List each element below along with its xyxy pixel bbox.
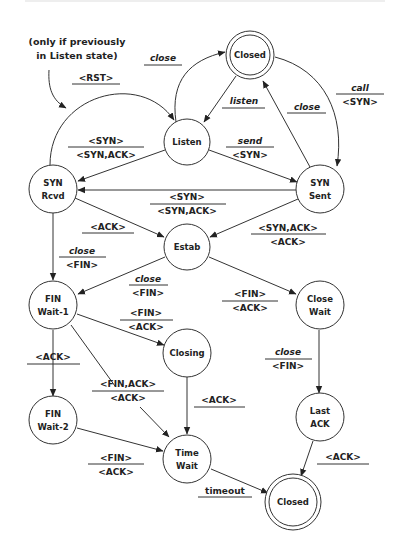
- edge-finwait1-timewait-a: [71, 325, 115, 386]
- svg-text:<FIN,ACK>: <FIN,ACK>: [100, 379, 156, 389]
- svg-text:Wait: Wait: [176, 461, 198, 471]
- svg-text:<ACK>: <ACK>: [325, 452, 361, 462]
- label-listen-close: close: [144, 53, 182, 65]
- svg-text:Wait: Wait: [309, 307, 331, 317]
- label-synsent-synrcvd: <SYN> <SYN,ACK>: [150, 192, 226, 216]
- svg-text:Last: Last: [310, 406, 330, 416]
- label-estab-closewait: <FIN> <ACK>: [222, 289, 278, 313]
- state-fin-wait-2: FIN Wait-2: [29, 396, 77, 444]
- svg-text:Closing: Closing: [169, 348, 204, 358]
- svg-text:Sent: Sent: [309, 191, 331, 201]
- svg-text:close: close: [135, 274, 161, 284]
- svg-text:FIN: FIN: [45, 294, 61, 304]
- svg-text:<ACK>: <ACK>: [270, 237, 306, 247]
- state-closed-top: Closed: [226, 31, 274, 79]
- label-rst: <RST>: [72, 73, 120, 84]
- state-closing: Closing: [163, 329, 211, 377]
- label-listen: listen: [222, 96, 265, 108]
- svg-text:close: close: [69, 246, 95, 256]
- svg-text:<FIN>: <FIN>: [272, 361, 304, 371]
- state-last-ack: Last ACK: [296, 393, 344, 441]
- note-arrow: [49, 70, 66, 108]
- svg-text:<ACK>: <ACK>: [110, 393, 146, 403]
- svg-text:<FIN>: <FIN>: [132, 288, 164, 298]
- svg-text:Listen: Listen: [172, 137, 201, 147]
- svg-text:<ACK>: <ACK>: [128, 322, 164, 332]
- svg-text:<ACK>: <ACK>: [232, 303, 268, 313]
- svg-text:in Listen state): in Listen state): [36, 50, 117, 61]
- label-timeout: timeout: [198, 486, 252, 497]
- label-finwait1-closing: <FIN> <ACK>: [120, 308, 173, 332]
- svg-text:<ACK>: <ACK>: [201, 395, 237, 405]
- svg-text:call: call: [351, 83, 369, 93]
- svg-text:send: send: [238, 136, 263, 146]
- label-finwait2-timewait: <FIN> <ACK>: [88, 453, 144, 477]
- edge-finwait1-timewait-b: [140, 407, 169, 437]
- edge-lastack-closed: [301, 441, 313, 476]
- svg-text:SYN: SYN: [310, 178, 329, 188]
- state-syn-sent: SYN Sent: [296, 165, 344, 213]
- edge-finwait2-timewait: [77, 428, 163, 451]
- svg-text:<SYN>: <SYN>: [169, 192, 205, 202]
- svg-text:listen: listen: [230, 96, 258, 106]
- label-synsent-close: close: [287, 102, 326, 113]
- state-fin-wait-1: FIN Wait-1: [29, 281, 77, 329]
- svg-text:<ACK>: <ACK>: [98, 467, 134, 477]
- svg-text:ACK: ACK: [310, 419, 330, 429]
- svg-text:<SYN,ACK>: <SYN,ACK>: [157, 206, 217, 216]
- edge-listen-closed: [175, 52, 225, 122]
- svg-text:Rcvd: Rcvd: [41, 191, 64, 201]
- svg-text:<FIN>: <FIN>: [234, 289, 266, 299]
- label-closing-timewait: <ACK>: [194, 395, 245, 407]
- label-estab-finwait1: close <FIN>: [129, 274, 168, 298]
- svg-text:FIN: FIN: [45, 409, 61, 419]
- svg-text:(only if previously: (only if previously: [29, 36, 127, 47]
- svg-text:Wait-1: Wait-1: [37, 307, 68, 317]
- state-time-wait: Time Wait: [163, 435, 211, 483]
- state-syn-rcvd: SYN Rcvd: [29, 165, 77, 213]
- svg-text:Wait-2: Wait-2: [37, 422, 68, 432]
- svg-text:Closed: Closed: [234, 50, 266, 60]
- label-lastack-closed: <ACK>: [317, 452, 369, 464]
- svg-text:<RST>: <RST>: [79, 73, 114, 83]
- state-close-wait: Close Wait: [296, 281, 344, 329]
- edge-synsent-closed: [263, 81, 310, 167]
- tcp-state-diagram: Closed Listen SYN Rcvd SYN Sent Estab FI…: [0, 0, 403, 553]
- svg-text:<FIN>: <FIN>: [66, 260, 98, 270]
- svg-text:<SYN,ACK>: <SYN,ACK>: [76, 150, 136, 160]
- edges: [49, 52, 339, 493]
- svg-text:<SYN,ACK>: <SYN,ACK>: [258, 223, 318, 233]
- label-closewait-lastack: close <FIN>: [265, 347, 312, 371]
- note-listen-state: (only if previously in Listen state): [29, 36, 127, 61]
- svg-text:<FIN>: <FIN>: [130, 308, 162, 318]
- svg-text:close: close: [275, 347, 301, 357]
- svg-text:timeout: timeout: [205, 486, 245, 496]
- svg-text:close: close: [150, 53, 176, 63]
- state-estab: Estab: [164, 224, 210, 270]
- svg-text:Closed: Closed: [277, 497, 309, 507]
- label-synrcvd-estab: <ACK>: [82, 222, 134, 233]
- label-listen-synrcvd: <SYN> <SYN,ACK>: [68, 136, 144, 160]
- state-closed-bottom: Closed: [265, 474, 321, 530]
- svg-text:<ACK>: <ACK>: [90, 222, 126, 232]
- state-listen: Listen: [164, 119, 210, 165]
- svg-text:<SYN>: <SYN>: [232, 150, 268, 160]
- svg-text:<SYN>: <SYN>: [88, 136, 124, 146]
- label-synsent-estab: <SYN,ACK> <ACK>: [251, 223, 326, 247]
- label-call: call <SYN>: [336, 83, 384, 107]
- label-send: send <SYN>: [226, 136, 274, 160]
- svg-text:<ACK>: <ACK>: [35, 352, 71, 362]
- svg-text:<FIN>: <FIN>: [100, 453, 132, 463]
- svg-text:close: close: [294, 102, 320, 112]
- label-finwait1-timewait: <FIN,ACK> <ACK>: [92, 379, 164, 403]
- svg-text:Close: Close: [307, 294, 333, 304]
- svg-text:SYN: SYN: [43, 178, 62, 188]
- label-synrcvd-finwait1: close <FIN>: [59, 246, 106, 270]
- svg-text:Time: Time: [175, 448, 199, 458]
- svg-text:Estab: Estab: [174, 242, 201, 252]
- svg-text:<SYN>: <SYN>: [342, 97, 378, 107]
